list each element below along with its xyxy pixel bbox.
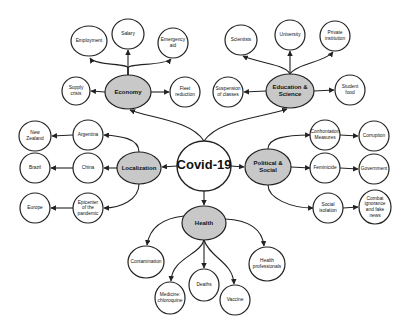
node-scientists: Scientists xyxy=(225,25,257,55)
edge-covid-to-economy xyxy=(130,110,204,141)
node-label: institution xyxy=(325,36,346,41)
node-newzealand: NewZealand xyxy=(19,121,51,151)
node-label: Deaths xyxy=(196,282,212,287)
node-label: Zealand xyxy=(26,136,44,141)
node-label: Scientists xyxy=(231,37,252,42)
edge-education-to-studentfood xyxy=(314,90,334,91)
edge-argentina-to-newzealand xyxy=(52,135,73,136)
edge-political-to-isolation xyxy=(268,185,313,208)
node-label: Emergency xyxy=(161,37,186,42)
edge-feminicide-to-government xyxy=(340,168,358,169)
node-label: Suspension xyxy=(215,86,240,91)
node-fleet: Fleetreduction xyxy=(170,77,200,107)
edge-political-to-confrontation xyxy=(268,135,310,149)
node-deaths: Deaths xyxy=(189,269,219,301)
node-epicenter: Epicenterof thepandemic xyxy=(73,193,103,223)
node-label: New xyxy=(30,130,40,135)
node-label: Localization xyxy=(122,165,157,171)
node-corruption: Corruption xyxy=(359,121,389,151)
node-label: Supply xyxy=(69,85,84,90)
node-label: Science xyxy=(279,91,302,97)
node-label: pandemic xyxy=(78,211,99,216)
edge-health-to-healthpro xyxy=(225,219,264,246)
node-employment: Employment xyxy=(71,26,107,56)
edge-education-to-scientists xyxy=(243,56,290,74)
edge-education-to-suspension xyxy=(244,91,266,92)
node-label: reduction xyxy=(175,92,195,97)
node-label: Feminicide xyxy=(313,165,337,170)
node-healthpro: Healthprofessionals xyxy=(249,247,285,281)
node-government: Government xyxy=(359,154,389,184)
node-layer: EmploymentSalaryEmergencyaidSupplycrisis… xyxy=(19,19,391,315)
node-contamination: Contamination xyxy=(128,246,164,278)
node-salary: Salary xyxy=(112,19,144,49)
node-label: professionals xyxy=(253,264,282,269)
node-medicine: Medicine:chloroquine xyxy=(155,282,185,314)
node-label: of the xyxy=(82,205,94,210)
node-label: Political & xyxy=(253,160,283,166)
node-europe: Europe xyxy=(20,193,50,223)
node-label: Social xyxy=(321,202,334,207)
node-suspension: Suspensionof classes xyxy=(213,77,243,107)
node-label: food xyxy=(345,90,355,95)
node-label: Vaccine xyxy=(227,297,244,302)
node-education: Education &Science xyxy=(266,74,314,108)
node-label: news xyxy=(369,213,381,218)
edge-covid-to-localization xyxy=(162,166,177,167)
node-label: Medicine: xyxy=(160,292,181,297)
node-argentina: Argentina xyxy=(73,120,103,150)
node-label: Europe xyxy=(27,205,43,210)
node-label: Argentina xyxy=(78,132,99,137)
node-label: Covid-19 xyxy=(177,157,232,172)
node-feminicide: Feminicide xyxy=(310,153,340,183)
node-label: Economy xyxy=(114,89,142,95)
node-label: Education & xyxy=(272,84,308,90)
node-label: Epicenter xyxy=(78,200,99,205)
node-label: Health xyxy=(260,258,274,263)
node-label: Salary xyxy=(121,31,135,36)
node-combat: Combatignoranceand fakenews xyxy=(359,190,391,224)
node-label: Brazil xyxy=(29,165,41,170)
edge-localization-to-epicenter xyxy=(104,184,139,208)
edge-confrontation-to-corruption xyxy=(340,135,358,136)
node-vaccine: Vaccine xyxy=(220,285,250,315)
node-china: China xyxy=(73,153,103,183)
edge-political-to-feminicide xyxy=(291,167,310,168)
node-label: Confrontation xyxy=(311,129,340,134)
node-label: and fake xyxy=(366,207,385,212)
node-label: Student xyxy=(342,84,359,89)
node-label: isolation xyxy=(319,208,337,213)
node-label: Contamination xyxy=(131,259,162,264)
node-label: of classes xyxy=(217,92,239,97)
edge-economy-to-emergency xyxy=(128,59,171,75)
edge-covid-to-political xyxy=(231,166,244,167)
edge-localization-to-argentina xyxy=(104,135,139,152)
covid-mind-map: EmploymentSalaryEmergencyaidSupplycrisis… xyxy=(0,0,408,332)
node-label: ignorance xyxy=(364,201,385,206)
node-covid: Covid-19 xyxy=(177,141,232,191)
node-label: Government xyxy=(361,166,388,171)
node-label: chloroquine xyxy=(158,298,183,303)
node-brazil: Brazil xyxy=(20,153,50,183)
edge-education-to-private xyxy=(290,52,333,74)
edge-economy-to-employment xyxy=(90,58,128,75)
node-private: Privateinstitution xyxy=(320,21,350,51)
node-isolation: Socialisolation xyxy=(313,193,343,223)
node-label: China xyxy=(82,165,95,170)
edge-covid-to-education xyxy=(204,109,287,141)
node-label: Measures xyxy=(314,135,336,140)
node-economy: Economy xyxy=(105,75,151,109)
node-health: Health xyxy=(182,206,226,240)
node-label: Health xyxy=(195,220,214,226)
node-label: Employment xyxy=(76,38,103,43)
edge-isolation-to-combat xyxy=(343,207,358,208)
node-label: Social xyxy=(259,167,277,173)
node-confrontation: ConfrontationMeasures xyxy=(310,120,340,150)
node-localization: Localization xyxy=(117,152,161,184)
node-university: University xyxy=(275,20,305,50)
node-supply: Supplycrisis xyxy=(62,77,90,105)
node-political: Political &Social xyxy=(245,149,291,185)
edge-economy-to-supply xyxy=(91,91,105,92)
node-label: crisis xyxy=(71,91,83,96)
node-label: Fleet xyxy=(180,86,191,91)
